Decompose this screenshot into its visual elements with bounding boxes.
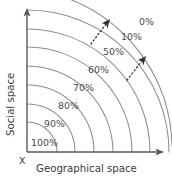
contour-label-100: 100% [31,137,58,148]
y-axis-label: Social space [5,73,16,136]
diagram-canvas: 100% 90% 80% 70% 60% 50% 10% 0% X Geogra… [0,0,172,178]
contour-label-50: 50% [103,46,124,57]
contour-label-70: 70% [73,82,94,93]
x-axis [27,148,164,155]
contour-label-60: 60% [88,64,109,75]
y-axis [23,8,30,152]
flow-arrow-shaft [127,61,142,80]
contour-label-10: 10% [121,31,142,42]
contour-arc-0 [54,0,172,146]
contour-label-group: 100% 90% 80% 70% 60% 50% 10% 0% [31,16,154,148]
contour-label-0: 0% [139,16,154,27]
outward-flow-arrow-upper-left [91,19,110,44]
origin-marker-label: X [19,155,26,166]
contour-label-90: 90% [44,118,65,129]
distance-decay-diagram: 100% 90% 80% 70% 60% 50% 10% 0% X Geogra… [0,0,172,178]
flow-arrow-shaft [91,24,106,44]
outward-flow-arrow-lower-right [127,56,146,80]
contour-label-80: 80% [58,100,79,111]
x-axis-label: Geographical space [36,163,137,174]
